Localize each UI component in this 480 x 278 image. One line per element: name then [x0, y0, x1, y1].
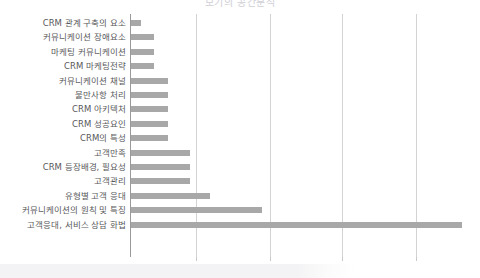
bar-row[interactable]: 커뮤니케이션 채널 [0, 74, 480, 88]
bar[interactable] [131, 150, 190, 156]
bar-row[interactable]: 고객응대, 서비스 상담 화법 [0, 218, 480, 232]
bottom-band [0, 264, 480, 278]
category-label: 커뮤니케이션 장애요소 [0, 32, 126, 42]
category-label: CRM 아키텍처 [0, 104, 126, 114]
category-label: CRM의 특성 [0, 133, 126, 143]
x-tick-2 [342, 257, 343, 261]
bar[interactable] [131, 121, 168, 127]
chart-title: 보기의 공간분석 [0, 0, 480, 9]
x-tick-0 [196, 257, 197, 261]
category-label: 마케팅 커뮤니케이션 [0, 47, 126, 57]
category-label: 커뮤니케이션 채널 [0, 76, 126, 86]
category-label: 고객만족 [0, 148, 126, 158]
category-label: 고객응대, 서비스 상담 화법 [0, 220, 126, 230]
category-label: 커뮤니케이션의 원칙 및 특징 [0, 205, 126, 215]
bar-rows: CRM 관계 구축의 요소커뮤니케이션 장애요소마케팅 커뮤니케이션CRM 마케… [0, 14, 480, 257]
bar[interactable] [131, 92, 168, 98]
category-label: 유형별 고객 응대 [0, 191, 126, 201]
bar-row[interactable]: CRM 마케팅전략 [0, 59, 480, 73]
bar[interactable] [131, 34, 154, 40]
category-label: CRM 성공요인 [0, 119, 126, 129]
bar-row[interactable]: 유형별 고객 응대 [0, 189, 480, 203]
bar[interactable] [131, 20, 141, 26]
bar[interactable] [131, 193, 210, 199]
bar-row[interactable]: CRM 성공요인 [0, 117, 480, 131]
category-label: CRM 등장배경, 필요성 [0, 162, 126, 172]
bar[interactable] [131, 135, 168, 141]
bar[interactable] [131, 164, 190, 170]
bar[interactable] [131, 207, 262, 213]
bar-row[interactable]: CRM 등장배경, 필요성 [0, 160, 480, 174]
bar[interactable] [131, 78, 168, 84]
bar[interactable] [131, 178, 190, 184]
bar-row[interactable]: 마케팅 커뮤니케이션 [0, 45, 480, 59]
bar-row[interactable]: CRM 관계 구축의 요소 [0, 16, 480, 30]
plot-area: CRM 관계 구축의 요소커뮤니케이션 장애요소마케팅 커뮤니케이션CRM 마케… [0, 14, 480, 260]
bar-row[interactable]: 불만사항 처리 [0, 88, 480, 102]
x-tick-1 [270, 257, 271, 261]
bar[interactable] [131, 63, 154, 69]
category-label: 고객관리 [0, 176, 126, 186]
bar-chart: 보기의 공간분석 CRM 관계 구축의 요소커뮤니케이션 장애요소마케팅 커뮤니… [0, 0, 480, 278]
category-label: CRM 관계 구축의 요소 [0, 18, 126, 28]
bar[interactable] [131, 106, 168, 112]
bar[interactable] [131, 222, 462, 228]
bar-row[interactable]: CRM의 특성 [0, 131, 480, 145]
category-label: CRM 마케팅전략 [0, 61, 126, 71]
bar-row[interactable]: 커뮤니케이션 장애요소 [0, 30, 480, 44]
bar-row[interactable]: 고객만족 [0, 146, 480, 160]
bar-row[interactable]: 고객관리 [0, 174, 480, 188]
category-label: 불만사항 처리 [0, 90, 126, 100]
bar-row[interactable]: CRM 아키텍처 [0, 102, 480, 116]
bar-row[interactable]: 커뮤니케이션의 원칙 및 특징 [0, 203, 480, 217]
x-tick-3 [416, 257, 417, 261]
bar[interactable] [131, 49, 154, 55]
